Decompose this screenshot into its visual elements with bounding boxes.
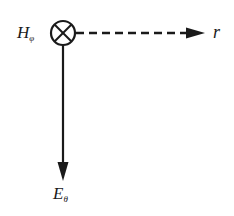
- into-page-vector-icon: [51, 21, 75, 45]
- e-label-main: E: [53, 184, 63, 203]
- e-field-arrow: [58, 45, 69, 181]
- h-label-subscript: φ: [29, 33, 34, 43]
- e-theta-label: Eθ: [53, 185, 68, 204]
- e-label-subscript: θ: [63, 194, 67, 204]
- field-diagram: [0, 0, 234, 216]
- h-label-main: H: [17, 23, 29, 42]
- r-label-text: r: [213, 22, 220, 42]
- h-phi-label: Hφ: [17, 24, 34, 43]
- r-label: r: [213, 23, 220, 41]
- radial-direction-arrow: [76, 28, 205, 39]
